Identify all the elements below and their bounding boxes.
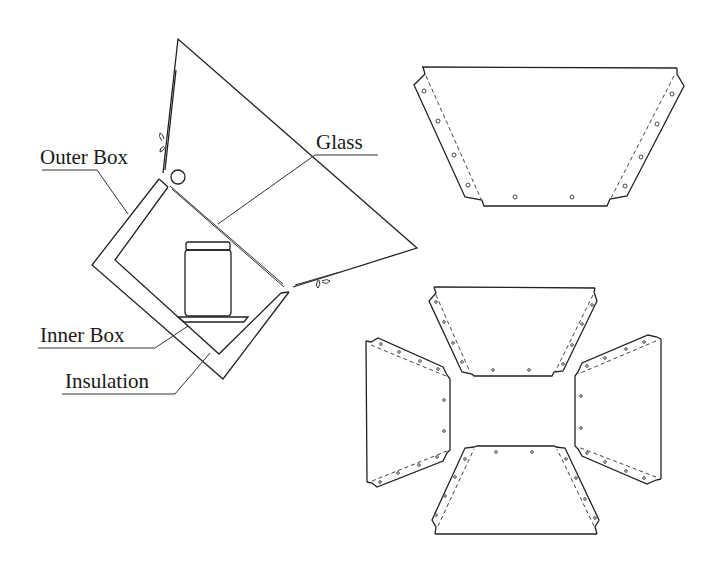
reflector-edge-lower-double xyxy=(295,272,340,285)
outer-box-leader xyxy=(42,170,128,214)
lower-hinge-icon xyxy=(317,280,331,289)
label-outer-box: Outer Box xyxy=(40,147,128,168)
four-panel-layout xyxy=(366,287,661,534)
glass-pane xyxy=(170,186,284,287)
jar-tray xyxy=(178,317,248,322)
upper-hinge-icon xyxy=(159,133,185,184)
solar-oven-diagram: Outer Box Glass Inner Box Insulation xyxy=(0,0,712,565)
panel-right xyxy=(575,335,661,484)
outer-box-outline xyxy=(92,179,289,379)
panel-top xyxy=(429,287,597,376)
diagram-canvas xyxy=(0,0,712,565)
panel-bottom xyxy=(432,446,599,534)
jar-icon xyxy=(185,242,231,316)
label-insulation: Insulation xyxy=(65,371,149,392)
reflector-edge-double xyxy=(165,70,176,170)
label-glass: Glass xyxy=(316,132,363,153)
single-panel-template xyxy=(414,67,684,206)
glass-leader xyxy=(218,155,378,224)
label-inner-box: Inner Box xyxy=(40,325,125,346)
panel-left xyxy=(366,338,450,487)
box-top-rim xyxy=(159,179,168,187)
